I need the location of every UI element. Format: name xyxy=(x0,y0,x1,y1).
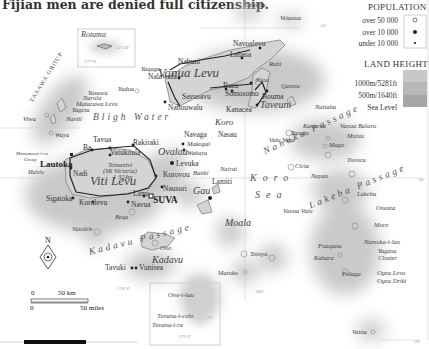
scale-mi-zero: 0 xyxy=(30,305,34,312)
label-malolo: Malolo xyxy=(28,170,44,176)
label-viwa: Viwa xyxy=(23,116,36,123)
label-korolevu: Korolevu xyxy=(79,199,107,207)
label-ono-i-lau: Ono-i-lau xyxy=(168,292,194,299)
label-sigatoka: Sigatoka xyxy=(46,195,72,203)
label-bouma: Bouma xyxy=(262,93,284,101)
inset-south-lon: 179°E xyxy=(178,334,191,339)
label-nalawalu: Nalawalu xyxy=(148,73,177,81)
label-vanua-balavu: Vanua Balavu xyxy=(340,123,376,130)
label-vatoa: Vatoa xyxy=(352,329,367,336)
label-vatukoula: Vatukoula xyxy=(110,149,140,157)
label-naviti: Naviti xyxy=(66,116,82,123)
label-batiki: Batiki xyxy=(193,170,209,177)
label-nausori: Nausori xyxy=(163,185,187,193)
label-tuvuca: Tuvuca xyxy=(347,157,366,164)
legend-500m: 500m/1640ft xyxy=(358,91,397,100)
label-tuvana-i-colo: Tuvana-i-colo xyxy=(157,313,193,320)
label-yadua: Yadua xyxy=(118,86,134,93)
label-nayau: Nayau xyxy=(311,173,328,180)
label-moce: Moce xyxy=(374,222,388,229)
label-ba: Ba xyxy=(83,144,91,152)
label-ono: Ono xyxy=(160,245,171,252)
label-cikobia: Cikobia xyxy=(245,2,266,9)
label-mamanuca-group: Group xyxy=(24,157,37,162)
scale-km-zero: 0 xyxy=(31,290,35,297)
label-yageta: Yageta xyxy=(72,107,89,114)
compass-north-label: N xyxy=(45,237,51,245)
label-fuaqana: Fuaqana xyxy=(318,243,341,250)
label-labasa: Labasa xyxy=(230,51,251,59)
label-waya: Waya xyxy=(55,132,69,139)
label-kioa: Kioa xyxy=(256,77,269,84)
label-lat-16: 16° xyxy=(320,23,327,28)
legend-1000m: 1000m/5281ft xyxy=(355,79,398,88)
legend-sea-level: Sea Level xyxy=(367,103,397,112)
label-lamiti: Lamiti xyxy=(212,178,232,186)
label-ogea-driki: Ogea Driki xyxy=(377,278,406,285)
label-kabara: Kabara xyxy=(314,255,334,262)
label-rakiraki: Rakiraki xyxy=(133,139,159,147)
label-namuka-i-lau: Namuka-i-lau xyxy=(364,239,400,246)
legend-under-10000: under 10 000 xyxy=(358,39,398,48)
label-vetauua: Vetauua xyxy=(280,15,301,22)
label-nadi: Nadi xyxy=(73,170,88,178)
label-lon-180: 180° xyxy=(255,289,265,294)
label-naitaba: Naitaba xyxy=(315,104,336,111)
legend-over-50000: over 50 000 xyxy=(362,16,398,25)
label-nairai: Nairai xyxy=(220,166,237,173)
inset-rotuma-label: Rotuma xyxy=(81,31,106,39)
label-lakeba: Lakeba xyxy=(357,191,376,198)
population-legend-title: POPULATION xyxy=(368,2,427,12)
label-yagasa-cluster: Cluster xyxy=(378,255,397,262)
label-kanacea-town: Kanacea xyxy=(226,106,252,114)
label-vatu-vara: Vatu Vara xyxy=(269,137,294,144)
scale-bar xyxy=(31,299,88,303)
label-nasau: Nasau xyxy=(218,131,237,139)
label-lat-20: 20° xyxy=(414,339,421,344)
label-tavuki: Tavuki xyxy=(105,264,126,272)
label-nabuni: Nabuni xyxy=(178,58,200,66)
inset-rotuma-lat: 12°30' xyxy=(116,45,129,50)
label-lon-178e: 178°E xyxy=(117,286,130,291)
label-somosomo: Somosomo xyxy=(225,90,259,98)
label-totoya: Totoya xyxy=(250,251,267,258)
label-tavua: Tavua xyxy=(93,136,111,144)
label-taveuni: Taveuni xyxy=(260,100,291,110)
label-navaga: Navaga xyxy=(184,131,207,139)
legend-over-10000: over 10 000 xyxy=(362,28,398,37)
label-munia: Munia xyxy=(347,133,364,140)
label-vunisea: Vunisea xyxy=(139,264,163,272)
label-vatulele: Vatulele xyxy=(72,226,93,233)
label-lautoka: Lautoka xyxy=(40,160,73,169)
label-suva: SUVA xyxy=(153,196,178,206)
label-gau: Gau xyxy=(193,186,210,196)
label-navua: Navua xyxy=(131,201,151,209)
label-ovalau: Ovalau xyxy=(158,147,187,157)
label-korovou: Korovou xyxy=(163,171,190,179)
label-vanua-vatu: Vanua Vatu xyxy=(283,208,312,215)
label-tuvana-i-ra: Tuvana-i-ra xyxy=(152,322,183,329)
label-moala: Moala xyxy=(225,218,251,228)
label-matuku: Matuku xyxy=(218,270,238,277)
label-fulaga: Fulaga xyxy=(342,271,361,278)
inset-rotuma-lon: 177°E xyxy=(84,59,97,64)
label-ogea-levu: Ogea Levu xyxy=(377,270,405,277)
land-height-legend-title: LAND HEIGHT xyxy=(364,59,428,69)
label-tomanivi-height: 1 324m xyxy=(113,174,132,181)
scale-mi-label: 50 miles xyxy=(80,305,104,312)
label-koro-sea-1: Koro xyxy=(250,173,294,183)
label-lami: Lami xyxy=(133,190,149,198)
label-cicia: Cicia xyxy=(295,163,309,170)
label-mago: Mago xyxy=(329,142,344,149)
label-lat-18: 18° xyxy=(418,177,425,182)
label-wakaya: Wakaya xyxy=(187,150,207,157)
label-navoalevu: Navoalevu xyxy=(233,40,266,48)
label-koro-sea-2: Sea xyxy=(255,190,287,200)
label-beqa: Beqa xyxy=(115,214,128,221)
label-mamanuca: Mamanuca-i-ra xyxy=(16,151,48,156)
label-levuka: Levuka xyxy=(176,160,199,168)
label-qamea: Qamea xyxy=(281,83,300,90)
label-savusavu: Savusavu xyxy=(182,93,211,101)
label-oneata: Oneata xyxy=(376,205,395,212)
label-bligh-water: Bligh Water xyxy=(93,113,171,123)
